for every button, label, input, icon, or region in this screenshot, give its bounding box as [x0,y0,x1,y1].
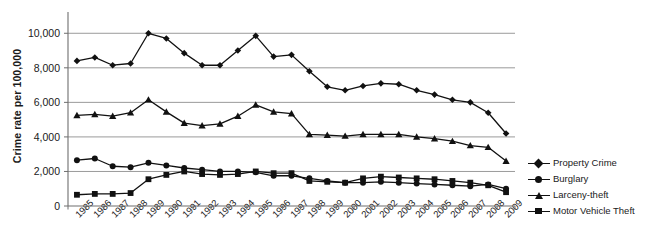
data-point-marker [74,192,80,198]
data-point-marker [163,172,169,178]
data-point-marker [128,164,134,170]
legend-item-label: Larceny-theft [553,190,608,200]
data-point-marker [413,87,420,94]
data-point-marker [414,175,420,181]
data-point-marker [163,108,170,114]
legend-item[interactable]: Property Crime [528,155,643,171]
data-point-marker [199,171,205,177]
legend-marker-diamond-icon [528,157,550,169]
data-point-marker [181,119,188,125]
data-point-marker [306,178,312,184]
data-point-marker [324,179,330,185]
legend-item[interactable]: Larceny-theft [528,187,643,203]
data-point-marker [450,178,456,184]
data-point-marker [128,190,134,196]
legend-item[interactable]: Motor Vehicle Theft [528,203,643,219]
data-point-marker [253,169,259,175]
data-point-marker [145,160,151,166]
data-point-marker [235,171,241,177]
data-point-marker [146,176,152,182]
data-point-marker [360,175,366,181]
data-point-marker [217,172,223,178]
legend-marker-triangle-icon [528,189,550,201]
chart-legend: Property CrimeBurglaryLarceny-theftMotor… [528,155,643,219]
legend-item[interactable]: Burglary [528,171,643,187]
series-line-larceny-theft [77,100,506,161]
data-point-marker [271,170,277,176]
legend-marker-circle-icon [528,173,550,185]
data-point-marker [360,83,367,90]
series-line-property-crime [77,33,506,133]
data-point-marker [127,109,134,115]
data-point-marker [395,81,402,88]
crime-rate-line-chart: Figure 1. Property crime rates per 100,0… [0,0,645,251]
legend-item-label: Motor Vehicle Theft [553,206,635,216]
legend-marker-square-icon [528,205,550,217]
data-point-marker [396,180,402,186]
data-point-marker [432,176,438,182]
data-point-marker [414,181,420,187]
data-point-marker [396,175,402,181]
data-point-marker [467,99,474,106]
legend-item-label: Burglary [553,174,588,184]
data-point-marker [74,157,80,163]
data-point-marker [234,113,241,119]
data-point-marker [145,30,152,37]
data-point-marker [92,191,98,197]
data-point-marker [342,180,348,186]
data-point-marker [432,181,438,187]
data-point-marker [110,191,116,197]
data-point-marker [431,91,438,98]
data-point-marker [74,58,81,65]
data-point-marker [92,54,99,61]
data-point-marker [485,182,491,188]
data-point-marker [289,170,295,176]
data-point-marker [378,174,384,180]
data-point-marker [163,162,169,168]
data-point-marker [145,96,152,102]
legend-item-label: Property Crime [553,158,617,168]
data-point-marker [127,60,134,67]
data-point-marker [467,180,473,186]
data-point-marker [503,189,509,195]
data-point-marker [378,179,384,185]
data-point-marker [181,169,187,175]
data-point-marker [378,80,385,87]
data-point-marker [92,156,98,162]
data-point-marker [110,163,116,169]
data-point-marker [342,87,349,94]
